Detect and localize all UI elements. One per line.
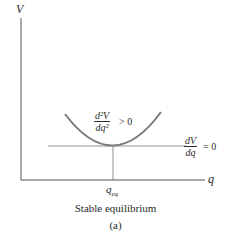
- x-axis-label: q: [208, 172, 214, 187]
- first-derivative-numerator: dV: [184, 135, 197, 147]
- panel-label: (a): [3, 219, 225, 231]
- second-derivative-numerator: d²V: [94, 110, 110, 122]
- eq-subscript: eq: [112, 190, 119, 198]
- second-derivative-denominator: dq²: [95, 122, 110, 133]
- y-axis-label: V: [16, 2, 23, 17]
- potential-well-curve: [65, 112, 161, 146]
- first-derivative-denominator: dq: [185, 147, 197, 158]
- first-derivative-relation: = 0: [203, 141, 216, 152]
- figure-caption: Stable equilibrium: [3, 202, 225, 214]
- second-derivative-relation: > 0: [119, 116, 132, 127]
- equilibrium-tick-label: qeq: [106, 183, 118, 198]
